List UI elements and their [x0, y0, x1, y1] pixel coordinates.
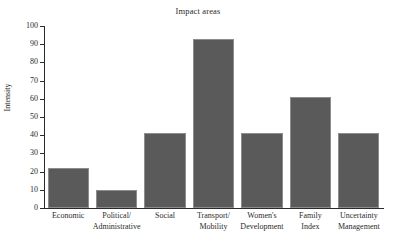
y-tick-label: 10 [30, 186, 38, 194]
bar [144, 133, 185, 208]
bar [96, 190, 137, 208]
plot-area: 0102030405060708090100 [44, 26, 383, 208]
y-tick-label: 40 [30, 131, 38, 139]
y-tick-label: 30 [30, 149, 38, 157]
y-tick-mark [40, 208, 44, 209]
y-tick-mark [40, 44, 44, 45]
y-tick-label: 60 [30, 95, 38, 103]
y-tick-mark [40, 190, 44, 191]
y-axis-label: Intensity [3, 68, 12, 128]
y-tick-mark [40, 153, 44, 154]
y-tick-label: 70 [30, 77, 38, 85]
y-tick-label: 0 [34, 204, 38, 212]
y-tick-label: 90 [30, 40, 38, 48]
x-tick-label: Political/Administrative [92, 211, 140, 232]
bar [193, 39, 234, 208]
bar-chart-figure: Impact areas Intensity 01020304050607080… [0, 0, 396, 249]
bar [48, 168, 89, 208]
y-tick-mark [40, 81, 44, 82]
y-tick-label: 20 [30, 168, 38, 176]
x-tick-label: UncertaintyManagement [335, 211, 383, 232]
chart-title: Impact areas [0, 6, 396, 16]
bar [290, 97, 331, 208]
x-tick-label: Social [141, 211, 189, 222]
y-tick-label: 80 [30, 58, 38, 66]
y-tick-mark [40, 117, 44, 118]
bar [338, 133, 379, 208]
y-tick-mark [40, 172, 44, 173]
x-tick-label: Transport/Mobility [189, 211, 237, 232]
bar [241, 133, 282, 208]
y-tick-label: 100 [26, 22, 38, 30]
x-axis-labels: EconomicPolitical/AdministrativeSocialTr… [44, 211, 384, 247]
y-tick-mark [40, 135, 44, 136]
y-tick-label: 50 [30, 113, 38, 121]
x-tick-label: Economic [44, 211, 92, 222]
x-tick-label: Women'sDevelopment [238, 211, 286, 232]
y-tick-mark [40, 99, 44, 100]
x-axis-line [44, 208, 384, 209]
x-tick-label: FamilyIndex [286, 211, 334, 232]
y-tick-mark [40, 26, 44, 27]
y-tick-mark [40, 62, 44, 63]
